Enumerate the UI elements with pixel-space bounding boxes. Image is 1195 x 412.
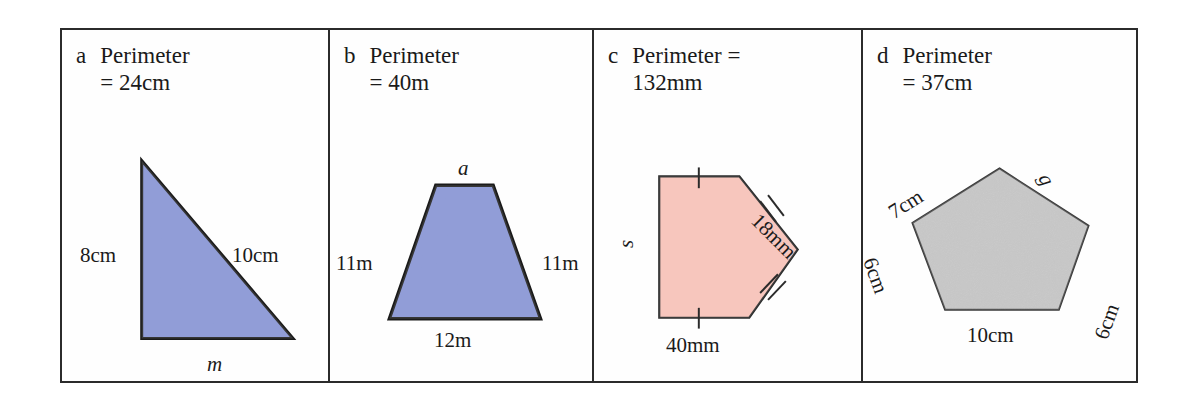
trapezoid-shape: [389, 185, 540, 318]
panel-b-header: b Perimeter = 40m: [344, 42, 584, 96]
panel-c-side-left-label: s: [616, 240, 637, 248]
panel-d-side-left-label: 6cm: [861, 255, 891, 296]
panel-c-heading: Perimeter = 132mm: [632, 42, 740, 96]
panel-d-header: d Perimeter = 37cm: [877, 42, 1128, 96]
panel-c: c Perimeter = 132mm: [592, 30, 861, 381]
panel-c-header: c Perimeter = 132mm: [608, 42, 853, 96]
panel-a-heading: Perimeter = 24cm: [100, 42, 189, 96]
panel-b-side-right-label: 11m: [542, 253, 579, 274]
tick-lower-right-double: [760, 274, 786, 300]
panel-a-header: a Perimeter = 24cm: [76, 42, 320, 96]
panel-a-side-hyp-label: 10cm: [232, 245, 279, 266]
panel-c-side-upper-right-label: 18mm: [747, 210, 800, 263]
panel-a-side-base-label: m: [207, 354, 222, 375]
panel-d-heading: Perimeter = 37cm: [903, 42, 992, 96]
panel-a-side-left-label: 8cm: [80, 245, 116, 266]
pentagon-shape: [912, 168, 1088, 309]
panel-c-side-bottom-label: 40mm: [666, 335, 720, 356]
panel-d-side-bottom-label: 10cm: [967, 325, 1014, 346]
panel-a-letter: a: [76, 42, 86, 69]
panel-b-side-left-label: 11m: [336, 253, 373, 274]
panel-d-letter: d: [877, 42, 889, 69]
panel-b-side-top-label: a: [458, 158, 469, 179]
panel-d: d Perimeter = 37cm 7cm g 6cm 6cm: [861, 30, 1136, 381]
panel-d-side-upper-right-label: g: [1034, 170, 1057, 189]
perimeter-worksheet-table: a Perimeter = 24cm 8cm 10cm m: [60, 28, 1138, 383]
panel-d-side-right-label: 6cm: [1091, 301, 1123, 342]
panel-c-letter: c: [608, 42, 618, 69]
panel-b-letter: b: [344, 42, 356, 69]
panel-a: a Perimeter = 24cm 8cm 10cm m: [62, 30, 328, 381]
panel-b: b Perimeter = 40m a 11m 11m 12m: [328, 30, 592, 381]
panel-b-side-bottom-label: 12m: [434, 330, 471, 351]
panel-b-heading: Perimeter = 40m: [370, 42, 459, 96]
panel-d-side-upper-left-label: 7cm: [885, 186, 927, 223]
